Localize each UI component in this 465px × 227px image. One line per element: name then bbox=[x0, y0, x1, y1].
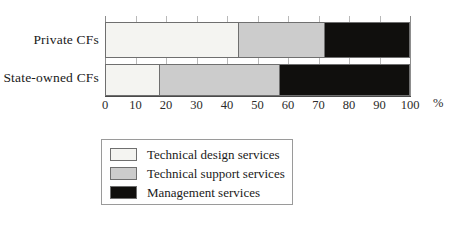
plot-area bbox=[105, 16, 410, 96]
x-axis-tick-label: 80 bbox=[343, 98, 356, 113]
legend-item-technical-design-services: Technical design services bbox=[110, 145, 292, 164]
x-axis-tick-label: 50 bbox=[251, 98, 264, 113]
bar-segment-support bbox=[238, 23, 324, 57]
x-axis-tick-label: 90 bbox=[373, 98, 386, 113]
bar-state-owned-cfs bbox=[105, 64, 410, 96]
bar-segment-design bbox=[106, 65, 159, 95]
x-axis-tick-label: 40 bbox=[221, 98, 234, 113]
x-axis-tick-label: 100 bbox=[401, 98, 420, 113]
gridline bbox=[410, 16, 411, 96]
category-axis-labels: Private CFs State-owned CFs bbox=[0, 16, 99, 96]
legend-item-technical-support-services: Technical support services bbox=[110, 164, 292, 183]
x-axis-tick-label: 10 bbox=[129, 98, 142, 113]
bar-segment-design bbox=[106, 23, 238, 57]
category-label-state-owned-cfs: State-owned CFs bbox=[0, 70, 99, 86]
x-axis-tick-label: 30 bbox=[190, 98, 203, 113]
legend-label: Technical support services bbox=[147, 166, 285, 182]
legend-swatch-icon bbox=[110, 148, 137, 161]
stacked-bar-chart-figure: Private CFs State-owned CFs 010203040506… bbox=[0, 0, 465, 227]
legend-swatch-icon bbox=[110, 167, 137, 180]
x-axis-tick-label: 20 bbox=[160, 98, 173, 113]
legend-swatch-icon bbox=[110, 186, 137, 199]
x-axis-tick-labels: 0102030405060708090100 bbox=[105, 98, 410, 118]
bar-private-cfs bbox=[105, 22, 410, 58]
legend-label: Management services bbox=[147, 185, 260, 201]
bar-segment-management bbox=[324, 23, 409, 57]
bar-segment-management bbox=[279, 65, 409, 95]
x-axis-tick-label: 70 bbox=[312, 98, 325, 113]
legend-item-management-services: Management services bbox=[110, 183, 292, 202]
x-axis-line bbox=[105, 96, 411, 97]
bar-segment-support bbox=[159, 65, 279, 95]
chart-legend: Technical design services Technical supp… bbox=[101, 139, 293, 205]
legend-label: Technical design services bbox=[147, 147, 280, 163]
category-label-private-cfs: Private CFs bbox=[0, 32, 99, 48]
x-axis-tick-label: 60 bbox=[282, 98, 295, 113]
x-axis-unit-label: % bbox=[433, 96, 443, 111]
x-axis-tick-label: 0 bbox=[102, 98, 108, 113]
